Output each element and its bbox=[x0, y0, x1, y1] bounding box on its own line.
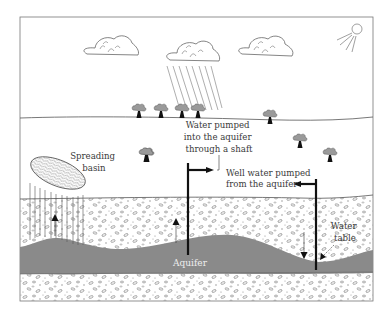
aquifer-label: Aquifer bbox=[172, 258, 208, 268]
shaft-label: Water pumped into the aquifer through a … bbox=[184, 120, 254, 154]
spreading-basin-label-line1: Spreading bbox=[70, 151, 115, 161]
shaft-label-line2: into the aquifer bbox=[184, 132, 253, 142]
well-label-line2: from the aquifer bbox=[226, 179, 298, 189]
spreading-basin-label-line2: basin bbox=[82, 163, 106, 173]
water-table-label-line2: table bbox=[334, 233, 356, 243]
shaft-label-line1: Water pumped bbox=[186, 120, 250, 130]
aquifer-diagram: Spreading basin Water pumped into the aq… bbox=[0, 0, 391, 315]
water-table-label-line1: Water bbox=[331, 221, 358, 231]
well-label-line1: Well water pumped bbox=[226, 168, 311, 178]
shaft-label-line3: through a shaft bbox=[185, 144, 253, 154]
